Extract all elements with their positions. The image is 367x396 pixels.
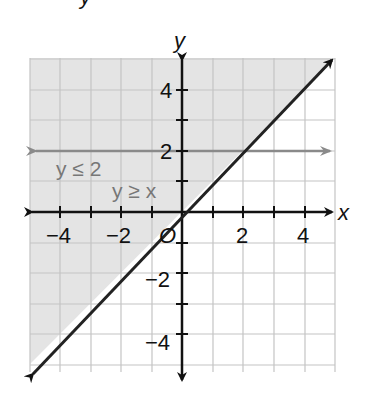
inequality-label-y-ge-x: y ≥ x bbox=[112, 179, 157, 202]
x-axis-label: x bbox=[337, 200, 350, 225]
x-tick-label: −2 bbox=[106, 223, 131, 248]
inequality-label-y-le-2: y ≤ 2 bbox=[56, 157, 101, 180]
y-tick-label: 2 bbox=[160, 139, 172, 164]
coordinate-plane: y bbox=[0, 0, 367, 396]
x-tick-label: 4 bbox=[297, 223, 309, 248]
y-tick-label: −2 bbox=[145, 267, 170, 292]
x-tick-label: 2 bbox=[236, 223, 248, 248]
y-tick-label: −4 bbox=[145, 330, 170, 355]
y-axis-label: y bbox=[172, 28, 187, 53]
x-tick-label: −4 bbox=[46, 223, 71, 248]
cropped-text-fragment: y bbox=[78, 0, 93, 9]
y-tick-label: 4 bbox=[160, 78, 172, 103]
origin-label: O bbox=[159, 223, 176, 248]
